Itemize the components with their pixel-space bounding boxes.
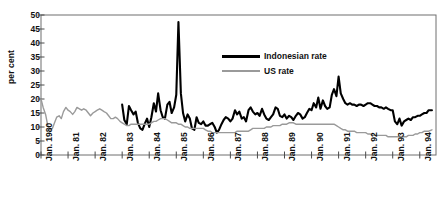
legend-swatch-line-icon bbox=[222, 55, 260, 58]
legend-label: Indonesian rate bbox=[264, 51, 327, 61]
plot-area bbox=[0, 0, 444, 221]
legend-swatch-line-icon bbox=[222, 70, 260, 72]
legend-entry-us-rate: US rate bbox=[222, 64, 294, 78]
axes-frame bbox=[41, 15, 436, 155]
chart-figure: per cent 05101520253035404550 Jan. 1980J… bbox=[0, 0, 444, 221]
legend-label: US rate bbox=[264, 66, 294, 76]
legend-entry-indonesian-rate: Indonesian rate bbox=[222, 49, 327, 63]
chart-legend: Indonesian rate US rate bbox=[222, 49, 352, 81]
